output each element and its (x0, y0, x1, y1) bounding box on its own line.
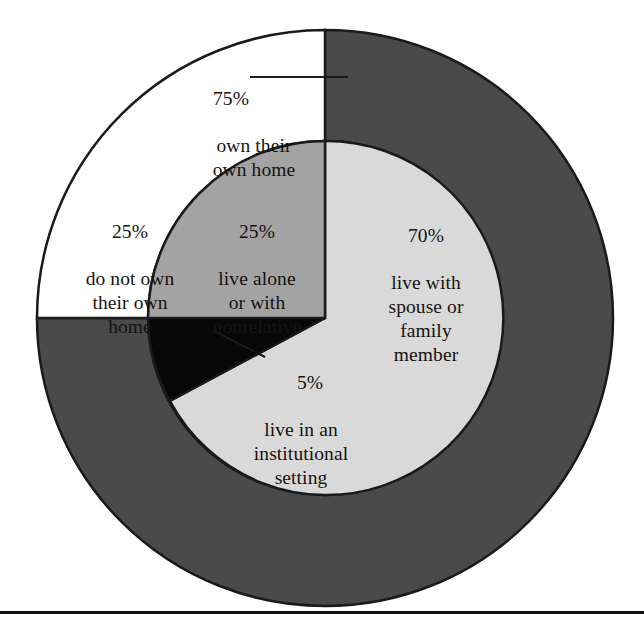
label-own-home-description: own their own home (168, 134, 340, 182)
label-institutional-description: live in an institutional setting (228, 418, 374, 489)
label-institutional-percent: 5% (246, 371, 374, 395)
label-live-alone-description: live alone or with nonrelative (182, 267, 332, 338)
label-live-with-family: 70% live with spouse or family member (356, 200, 496, 390)
label-own-home-percent: 75% (122, 87, 340, 111)
label-live-with-family-description: live with spouse or family member (356, 271, 496, 366)
label-live-alone: 25% live alone or with nonrelative (182, 196, 332, 362)
label-own-home: 75% own their own home (168, 63, 340, 206)
label-live-with-family-percent: 70% (356, 224, 496, 248)
donut-chart-figure: 75% own their own home 25% do not own th… (0, 0, 644, 623)
label-institutional: 5% live in an institutional setting (228, 347, 374, 513)
label-live-alone-percent: 25% (182, 220, 332, 244)
footer-rule (0, 611, 644, 614)
